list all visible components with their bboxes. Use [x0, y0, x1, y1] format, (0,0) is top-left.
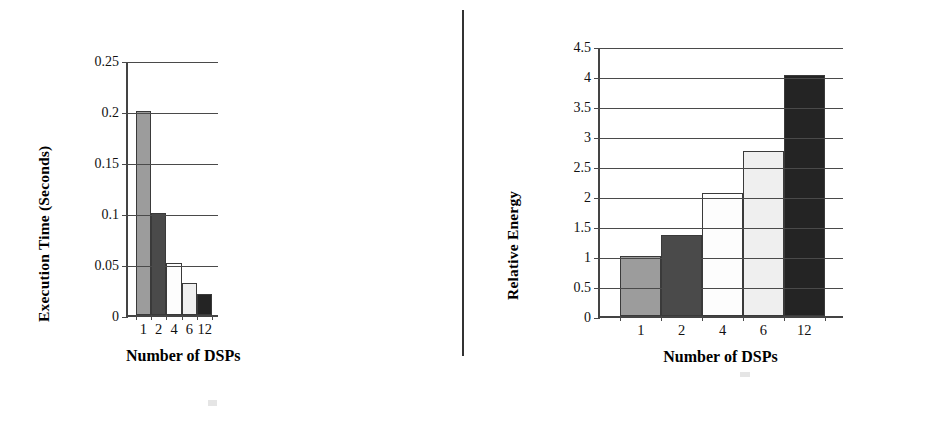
panel-divider: [462, 10, 464, 356]
y-axis-tick-label: 3: [584, 130, 591, 146]
x-axis-tick: [784, 316, 785, 321]
y-axis-tick: [594, 108, 600, 109]
y-axis-tick-label: 0.1: [102, 207, 120, 223]
gridline: [600, 48, 843, 49]
bar: [743, 151, 784, 316]
bar: [620, 256, 661, 316]
x-axis-tick-label: 2: [155, 321, 162, 338]
gridline: [128, 113, 218, 114]
y-axis-tick: [594, 48, 600, 49]
x-axis-tick-label: 1: [140, 321, 147, 338]
bar: [182, 283, 197, 315]
y-axis-title-execution-time: Execution Time (Seconds): [35, 146, 53, 322]
x-axis-tick-label: 4: [719, 322, 726, 339]
x-axis-tick: [212, 315, 213, 320]
gridline: [600, 78, 843, 79]
gridline: [600, 138, 843, 139]
bar: [702, 193, 743, 316]
gridline: [600, 228, 843, 229]
y-axis-tick: [594, 168, 600, 169]
y-axis-tick: [122, 62, 128, 63]
y-axis-tick-label: 1: [584, 250, 591, 266]
bar: [197, 294, 212, 315]
gridline: [128, 164, 218, 165]
x-axis-tick-label: 6: [760, 322, 767, 339]
y-axis-tick: [122, 317, 128, 318]
x-axis-tick: [166, 315, 167, 320]
y-axis-tick: [594, 288, 600, 289]
bar: [136, 111, 151, 315]
x-axis-tick-label: 2: [678, 322, 685, 339]
y-axis-tick-label: 4.5: [574, 40, 592, 56]
y-axis-tick: [594, 318, 600, 319]
y-axis-tick-label: 0.2: [102, 105, 120, 121]
scan-artifact: [208, 400, 217, 406]
bar-series-relative-energy: [600, 48, 843, 316]
x-axis-tick: [661, 316, 662, 321]
y-axis-tick-label: 0: [112, 309, 119, 325]
bar: [166, 263, 181, 315]
chart-panel-execution-time: Execution Time (Seconds) 00.050.10.150.2…: [0, 0, 460, 432]
gridline: [128, 266, 218, 267]
y-axis-tick: [594, 198, 600, 199]
gridline: [600, 108, 843, 109]
gridline: [600, 168, 843, 169]
bar: [661, 235, 702, 316]
y-axis-tick: [122, 113, 128, 114]
y-axis-tick-label: 0: [584, 310, 591, 326]
x-axis-title-relative-energy: Number of DSPs: [598, 348, 843, 366]
y-axis-tick-label: 0.25: [95, 54, 120, 70]
y-axis-tick: [122, 164, 128, 165]
plot-area-relative-energy: 00.511.522.533.544.5124612: [598, 48, 843, 318]
x-axis-tick-label: 12: [197, 321, 212, 338]
x-axis-tick-label: 6: [186, 321, 193, 338]
gridline: [128, 215, 218, 216]
y-axis-tick-label: 0.15: [95, 156, 120, 172]
y-axis-tick-label: 2: [584, 190, 591, 206]
y-axis-tick: [594, 258, 600, 259]
gridline: [128, 62, 218, 63]
x-axis-tick: [743, 316, 744, 321]
x-axis-tick: [197, 315, 198, 320]
bar: [784, 75, 825, 316]
y-axis-tick-label: 1.5: [574, 220, 592, 236]
y-axis-tick-label: 0.5: [574, 280, 592, 296]
y-axis-tick: [122, 266, 128, 267]
plot-area-execution-time: 00.050.10.150.20.25124612: [126, 62, 218, 317]
x-axis-tick-label: 1: [637, 322, 644, 339]
x-axis-title-execution-time: Number of DSPs: [126, 347, 218, 365]
x-axis-tick-label: 4: [170, 321, 177, 338]
bar-series-execution-time: [128, 62, 218, 315]
figure-two-bar-charts: Execution Time (Seconds) 00.050.10.150.2…: [0, 0, 933, 432]
y-axis-tick: [594, 228, 600, 229]
y-axis-tick-label: 3.5: [574, 100, 592, 116]
y-axis-tick-label: 0.05: [95, 258, 120, 274]
gridline: [600, 258, 843, 259]
x-axis-tick: [182, 315, 183, 320]
gridline: [600, 198, 843, 199]
y-axis-title-relative-energy: Relative Energy: [504, 191, 522, 300]
scan-artifact: [740, 372, 750, 377]
x-axis-tick: [825, 316, 826, 321]
y-axis-tick: [594, 78, 600, 79]
gridline: [600, 288, 843, 289]
x-axis-tick-label: 12: [797, 322, 812, 339]
y-axis-tick-label: 2.5: [574, 160, 592, 176]
x-axis-tick: [136, 315, 137, 320]
y-axis-tick-label: 4: [584, 70, 591, 86]
chart-panel-relative-energy: Relative Energy 00.511.522.533.544.51246…: [466, 0, 933, 432]
x-axis-tick: [151, 315, 152, 320]
y-axis-tick: [594, 138, 600, 139]
x-axis-tick: [702, 316, 703, 321]
x-axis-tick: [620, 316, 621, 321]
y-axis-tick: [122, 215, 128, 216]
bar: [151, 213, 166, 315]
